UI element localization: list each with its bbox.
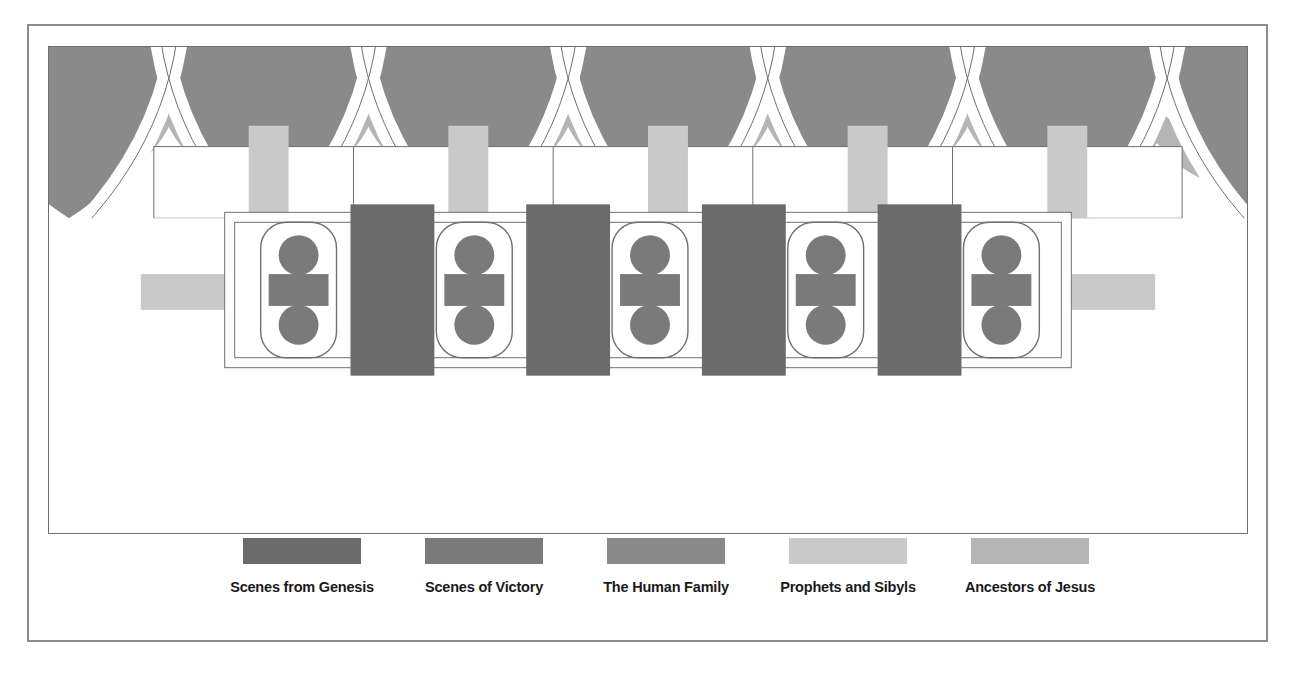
victory-bay: [963, 222, 1039, 357]
genesis-panel: [526, 204, 610, 375]
victory-panel: [620, 274, 680, 306]
legend: Scenes from Genesis Scenes of Victory Th…: [29, 538, 1270, 638]
legend-item-3: Prophets and Sibyls: [748, 538, 948, 596]
legend-swatch-genesis: [243, 538, 361, 564]
legend-swatch-human-family: [607, 538, 725, 564]
legend-swatch-ancestors: [971, 538, 1089, 564]
medallion: [454, 235, 494, 275]
ceiling-plan-svg: [49, 47, 1247, 533]
medallion: [630, 235, 670, 275]
poster-outer-frame: Scenes from Genesis Scenes of Victory Th…: [27, 24, 1268, 642]
victory-panel: [269, 274, 329, 306]
medallion: [806, 305, 846, 345]
victory-panel: [796, 274, 856, 306]
legend-label-ancestors: Ancestors of Jesus: [965, 579, 1095, 595]
medallion: [279, 305, 319, 345]
legend-label-prophets-sibyls: Prophets and Sibyls: [780, 579, 916, 595]
victory-bay: [261, 222, 337, 357]
medallion: [454, 305, 494, 345]
lunette-separator-bottom: [49, 429, 1247, 533]
victory-bay: [788, 222, 864, 357]
legend-item-0: Scenes from Genesis: [202, 538, 402, 596]
legend-label-victory: Scenes of Victory: [425, 579, 543, 595]
pilaster-cells-bottom: [154, 362, 1182, 434]
medallion: [981, 305, 1021, 345]
legend-item-1: Scenes of Victory: [384, 538, 584, 596]
spandrel-group-bottom: [49, 362, 1247, 533]
legend-item-4: Ancestors of Jesus: [930, 538, 1130, 596]
legend-label-genesis: Scenes from Genesis: [230, 579, 374, 595]
genesis-panel: [350, 204, 434, 375]
victory-panel: [971, 274, 1031, 306]
medallion: [279, 235, 319, 275]
medallion: [981, 235, 1021, 275]
medallion: [806, 235, 846, 275]
legend-label-human-family: The Human Family: [603, 579, 729, 595]
legend-item-2: The Human Family: [566, 538, 766, 596]
ceiling-plan-frame: [48, 46, 1248, 534]
genesis-panel: [702, 204, 786, 375]
lunette-group-bottom: [49, 392, 1247, 533]
medallion: [630, 305, 670, 345]
genesis-panel: [878, 204, 962, 375]
legend-swatch-victory: [425, 538, 543, 564]
victory-bay: [436, 222, 512, 357]
victory-panel: [444, 274, 504, 306]
legend-swatch-prophets-sibyls: [789, 538, 907, 564]
victory-bay: [612, 222, 688, 357]
